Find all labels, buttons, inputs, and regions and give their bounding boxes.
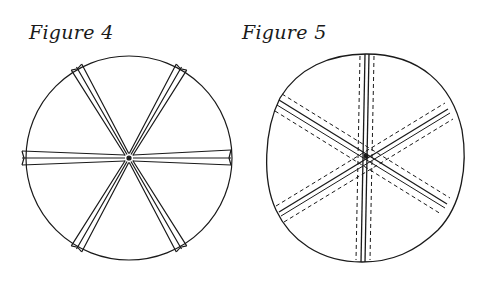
figures-canvas [0,0,482,282]
figure-4-drawing [22,56,232,260]
figure-5-drawing [267,54,465,262]
figure-5-center [364,154,368,158]
figure-4-center [127,156,131,160]
